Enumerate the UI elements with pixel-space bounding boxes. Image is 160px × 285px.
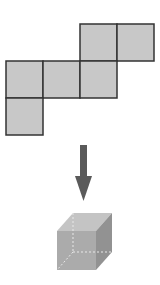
cube-icon: [57, 213, 112, 270]
cube-net: [6, 24, 154, 135]
net-square-4: [43, 61, 80, 98]
net-square-6: [6, 98, 43, 135]
cube-front-face: [57, 231, 96, 270]
net-square-2: [117, 24, 154, 61]
net-square-3: [6, 61, 43, 98]
cube-net-diagram: [0, 0, 160, 285]
down-arrow-icon: [75, 145, 92, 201]
net-square-5: [80, 61, 117, 98]
net-square-1: [80, 24, 117, 61]
